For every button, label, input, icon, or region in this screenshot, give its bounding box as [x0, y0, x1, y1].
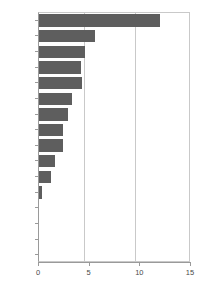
- x-tick-mark: [190, 262, 191, 266]
- bar-row: NL: [39, 76, 191, 92]
- bar-row: DK: [39, 13, 191, 29]
- x-axis-tick-label: 15: [186, 268, 194, 277]
- bar: [39, 124, 63, 136]
- y-tick-mark: [35, 51, 38, 52]
- y-tick-mark: [35, 239, 38, 240]
- bar-row: F: [39, 138, 191, 154]
- bar-chart: DKSFININLEDLFAUKIRLB*P*EL*EU-15* 051015: [0, 0, 202, 291]
- bar-row: UK: [39, 169, 191, 185]
- x-tick-mark: [139, 262, 140, 266]
- x-tick-mark: [89, 262, 90, 266]
- y-tick-mark: [35, 82, 38, 83]
- bar-row: P*: [39, 216, 191, 232]
- bar-row: B*: [39, 201, 191, 217]
- bar: [39, 155, 55, 167]
- bar-row: IRL: [39, 185, 191, 201]
- y-tick-mark: [35, 20, 38, 21]
- bar: [39, 139, 63, 151]
- y-tick-mark: [35, 129, 38, 130]
- bar: [39, 108, 68, 120]
- bar-row: EL*: [39, 232, 191, 248]
- bar-row: D: [39, 107, 191, 123]
- y-tick-mark: [35, 98, 38, 99]
- bar: [39, 77, 82, 89]
- bar-row: S: [39, 29, 191, 45]
- y-tick-mark: [35, 176, 38, 177]
- bar: [39, 171, 51, 183]
- plot-area: DKSFININLEDLFAUKIRLB*P*EL*EU-15*: [38, 12, 190, 262]
- x-tick-mark: [38, 262, 39, 266]
- y-tick-mark: [35, 114, 38, 115]
- x-axis-tick-label: 0: [36, 268, 40, 277]
- x-axis-line: [38, 262, 190, 263]
- bar-row: I: [39, 60, 191, 76]
- y-tick-mark: [35, 207, 38, 208]
- bar: [39, 93, 72, 105]
- y-tick-mark: [35, 223, 38, 224]
- bar: [39, 14, 160, 26]
- bar-row: EU-15*: [39, 247, 191, 263]
- y-tick-mark: [35, 67, 38, 68]
- y-tick-mark: [35, 145, 38, 146]
- y-tick-mark: [35, 35, 38, 36]
- y-tick-mark: [35, 160, 38, 161]
- bar: [39, 61, 81, 73]
- bar-row: A: [39, 154, 191, 170]
- bar-row: L: [39, 122, 191, 138]
- bar: [39, 46, 85, 58]
- x-axis-tick-label: 10: [135, 268, 143, 277]
- y-tick-mark: [35, 254, 38, 255]
- bar: [39, 30, 95, 42]
- y-tick-mark: [35, 192, 38, 193]
- x-axis-tick-label: 5: [87, 268, 91, 277]
- bar: [39, 186, 42, 198]
- bar-row: FIN: [39, 44, 191, 60]
- bar-series: DKSFININLEDLFAUKIRLB*P*EL*EU-15*: [39, 13, 189, 261]
- bar-row: E: [39, 91, 191, 107]
